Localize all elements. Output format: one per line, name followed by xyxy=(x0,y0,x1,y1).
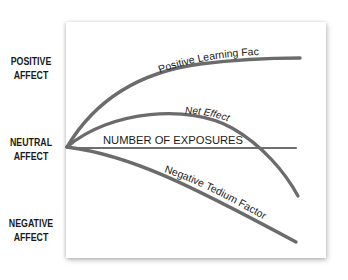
positive-curve-label-text: Positive Learning Factor xyxy=(0,0,259,75)
net-curve-label-text: Net Effect xyxy=(185,105,232,124)
x-axis-label: NUMBER OF EXPOSURES xyxy=(103,134,243,146)
positive-curve-label: Positive Learning Factor xyxy=(0,0,259,75)
net-curve-label: Net Effect xyxy=(185,105,232,124)
negative-curve-label-text: Negative Tedium Factor xyxy=(163,163,269,222)
negative-tedium-curve xyxy=(67,147,296,242)
negative-curve-label: Negative Tedium Factor xyxy=(163,163,269,222)
diagram-chart: NUMBER OF EXPOSURES Positive Learning Fa… xyxy=(0,0,348,280)
